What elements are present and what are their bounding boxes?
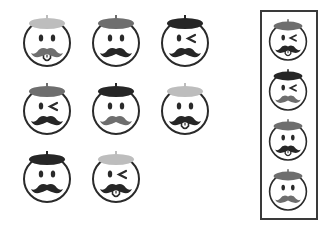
right-eye-icon [120,34,124,41]
beret-icon [167,86,203,97]
option-face-4[interactable] [264,166,312,214]
left-eye-icon [177,34,181,41]
left-eye-icon [281,135,285,141]
right-eye-icon [291,185,295,191]
grid-face-r2c2 [86,79,146,139]
grid-face-r3c2 [86,147,146,207]
right-eye-icon [120,102,124,109]
left-eye-icon [108,34,112,41]
beret-icon [98,154,134,165]
grid-face-r1c2 [86,11,146,71]
beret-icon [274,172,303,181]
left-eye-icon [177,102,181,109]
option-face-3[interactable] [264,116,312,164]
left-eye-icon [281,185,285,191]
grid-face-r3c1 [17,147,77,207]
beret-icon [274,72,303,81]
grid-face-r1c1 [17,11,77,71]
left-eye-icon [39,102,43,109]
left-eye-icon [281,35,285,41]
beret-icon [29,154,65,165]
beret-icon [29,18,65,29]
beret-icon [274,22,303,31]
grid-face-r2c3 [155,79,215,139]
left-eye-icon [39,170,43,177]
grid-face-r1c3 [155,11,215,71]
option-face-1[interactable] [264,16,312,64]
beret-icon [167,18,203,29]
left-eye-icon [281,85,285,91]
left-eye-icon [39,34,43,41]
right-eye-icon [189,102,193,109]
beret-icon [29,86,65,97]
left-eye-icon [108,170,112,177]
option-face-2[interactable] [264,66,312,114]
beret-icon [274,122,303,131]
right-eye-icon [291,135,295,141]
left-eye-icon [108,102,112,109]
grid-face-r2c1 [17,79,77,139]
right-eye-icon [51,34,55,41]
beret-icon [98,18,134,29]
right-eye-icon [51,170,55,177]
beret-icon [98,86,134,97]
